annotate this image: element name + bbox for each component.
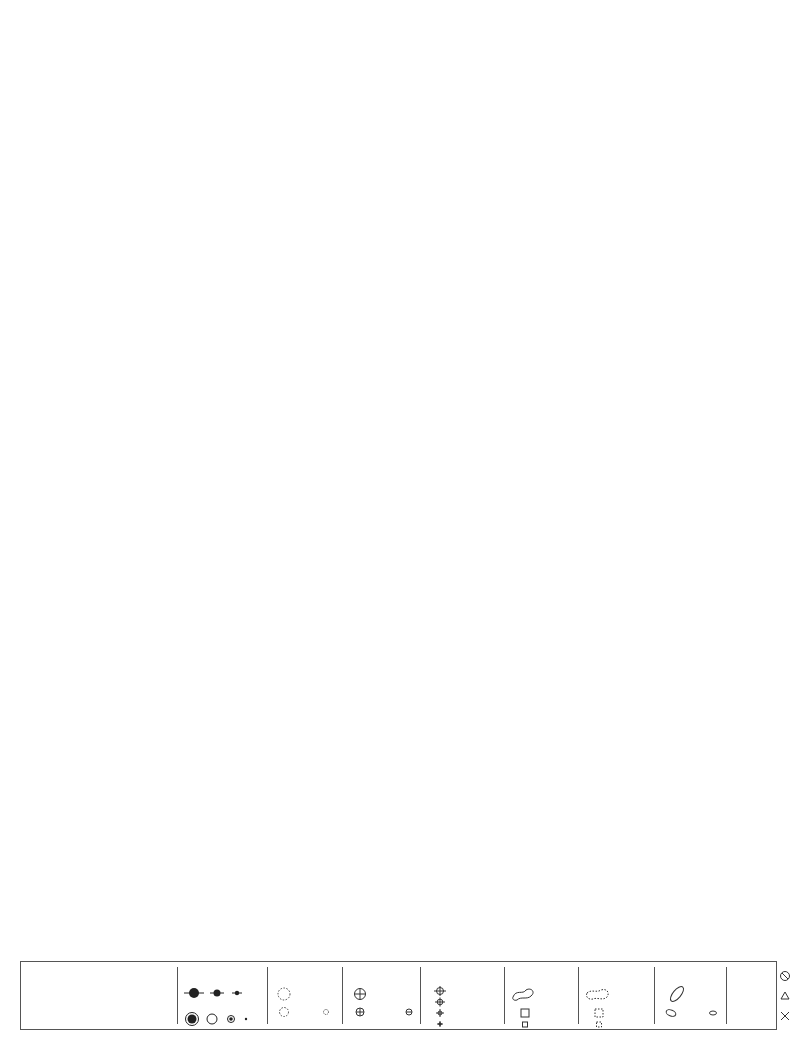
legend-stellar-magnitudes bbox=[21, 967, 178, 1024]
galaxy-icon bbox=[661, 985, 723, 1019]
star-chart bbox=[0, 0, 788, 960]
xray-source-icon bbox=[780, 1011, 790, 1021]
legend-bright-nebulae bbox=[505, 967, 579, 1024]
legend-misc-sources bbox=[727, 967, 776, 1024]
legend-dark-nebulae bbox=[579, 967, 655, 1024]
dark-nebula-icon bbox=[585, 987, 615, 1031]
open-cluster-icon bbox=[274, 987, 344, 1021]
radio-source-icon bbox=[780, 991, 790, 1001]
bright-nebula-icon bbox=[511, 987, 541, 1031]
legend-panel bbox=[20, 961, 777, 1030]
planetary-nebula-icon bbox=[431, 986, 451, 1030]
legend-open-clusters bbox=[268, 967, 343, 1024]
legend-galaxies bbox=[655, 967, 727, 1024]
legend-globular-clusters bbox=[343, 967, 421, 1024]
quasar-icon bbox=[779, 970, 791, 982]
variable-star-icon bbox=[184, 1011, 264, 1027]
magnitude-row-bright bbox=[83, 967, 178, 1007]
legend-double-variable bbox=[178, 967, 268, 1024]
legend-planetary-nebulae bbox=[421, 967, 505, 1024]
globular-cluster-icon bbox=[349, 987, 419, 1021]
magnitude-row-faint bbox=[25, 1005, 175, 1027]
double-star-icon bbox=[182, 987, 262, 999]
